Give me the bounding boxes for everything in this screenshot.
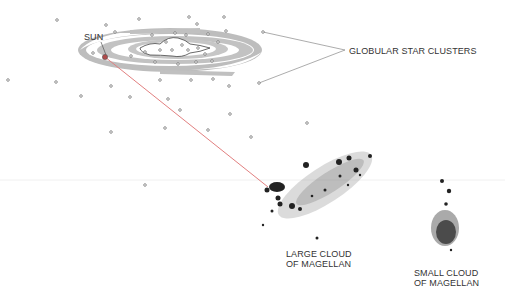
lmc-label-line1: LARGE CLOUD xyxy=(286,249,352,259)
globular-leader-line xyxy=(263,32,345,50)
lmc-label-line2: OF MAGELLAN xyxy=(286,259,351,269)
small-magellanic-cloud xyxy=(431,179,459,251)
smc-label-line2: OF MAGELLAN xyxy=(414,278,479,288)
sun-marker xyxy=(102,54,107,59)
sun-to-lmc-line xyxy=(105,57,268,187)
large-magellanic-cloud xyxy=(262,140,381,240)
sun-label: SUN xyxy=(84,32,103,42)
milky-way-galaxy xyxy=(78,28,262,76)
smc-label-line1: SMALL CLOUD xyxy=(414,268,478,278)
milky-way-diagram xyxy=(0,0,505,300)
globular-clusters-label: GLOBULAR STAR CLUSTERS xyxy=(349,46,477,56)
globular-leader-line xyxy=(259,50,345,83)
